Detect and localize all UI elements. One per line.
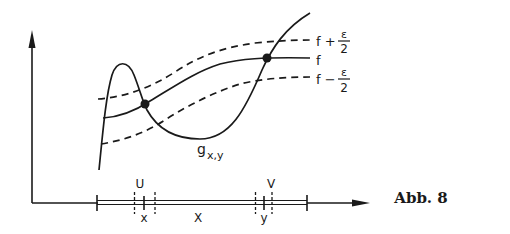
label-f-plus-den: 2 [340, 42, 348, 56]
intersection-dot-left [141, 100, 150, 109]
label-y-point: y [260, 211, 267, 225]
label-f-minus-num: ε [341, 66, 347, 79]
label-v: V [267, 177, 276, 191]
label-f-plus-text: f + [316, 34, 336, 49]
figure-abb-8: f + ε 2 f f − ε 2 g x,y U x X V y Abb. 8 [0, 0, 510, 234]
label-f-plus-eps: f + ε 2 [316, 28, 350, 56]
label-f: f [316, 53, 321, 68]
curve-f [103, 58, 310, 118]
label-u: U [136, 177, 145, 191]
label-f-minus-den: 2 [340, 81, 348, 95]
label-f-minus-eps: f − ε 2 [316, 66, 350, 95]
figure-caption: Abb. 8 [393, 189, 448, 207]
label-g-sub: x,y [207, 149, 224, 162]
y-axis [29, 30, 36, 203]
label-f-plus-num: ε [341, 28, 347, 41]
label-x-point: x [140, 211, 147, 225]
label-x-set: X [194, 211, 202, 225]
y-axis-arrow-icon [29, 30, 36, 48]
intersection-dot-right [263, 54, 272, 63]
label-g-base: g [197, 141, 206, 157]
label-g-xy: g x,y [197, 141, 224, 162]
x-axis-arrow-icon [352, 200, 370, 207]
label-f-minus-text: f − [316, 72, 336, 87]
